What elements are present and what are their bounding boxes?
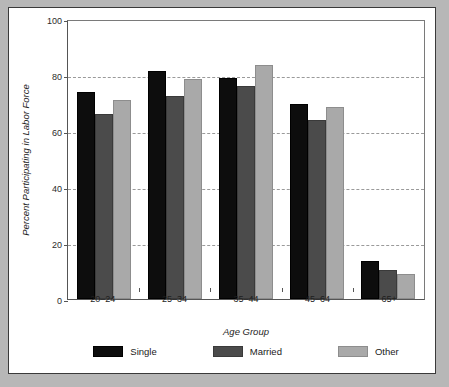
x-tick-label: 45–64 [305, 294, 330, 304]
bar-other-4564[interactable] [326, 107, 344, 299]
legend-item-single[interactable]: Single [93, 346, 156, 357]
chart-figure: Percent Participating in Labor Force 020… [0, 0, 449, 387]
bar-other-3544[interactable] [255, 65, 273, 299]
bar-married-4564[interactable] [308, 120, 326, 299]
x-tick-label: 20–24 [90, 294, 115, 304]
bar-single-65[interactable] [361, 261, 379, 299]
legend-item-other[interactable]: Other [338, 346, 399, 357]
bar-group [353, 21, 424, 299]
bar-married-2024[interactable] [95, 114, 113, 299]
y-axis-title: Percent Participating in Labor Force [20, 84, 31, 236]
legend-swatch-single [93, 346, 123, 357]
x-tick-mark [139, 288, 140, 292]
y-tick-mark [64, 301, 68, 302]
x-tick-label: 25–34 [162, 294, 187, 304]
bar-single-3544[interactable] [219, 78, 237, 299]
bar-single-2024[interactable] [77, 92, 95, 299]
bar-married-2534[interactable] [166, 96, 184, 299]
plot-area: 020406080100 [67, 20, 425, 300]
x-tick-label: 65+ [382, 294, 397, 304]
legend-swatch-other [338, 346, 368, 357]
bar-group [68, 21, 139, 299]
y-tick-label: 0 [57, 296, 62, 306]
legend-label: Married [250, 346, 282, 357]
x-tick-mark [210, 288, 211, 292]
chart-legend: SingleMarriedOther [67, 346, 425, 357]
chart-panel: Percent Participating in Labor Force 020… [8, 7, 436, 374]
x-axis-title: Age Group [223, 326, 269, 337]
bar-groups [68, 21, 424, 299]
bar-single-4564[interactable] [290, 104, 308, 299]
y-tick-label: 80 [52, 72, 62, 82]
y-tick-label: 60 [52, 128, 62, 138]
legend-label: Other [375, 346, 399, 357]
y-tick-label: 40 [52, 184, 62, 194]
bar-single-2534[interactable] [148, 71, 166, 299]
x-tick-label: 35–44 [233, 294, 258, 304]
x-tick-mark [282, 288, 283, 292]
bar-group [210, 21, 281, 299]
bar-other-2024[interactable] [113, 100, 131, 299]
bar-other-2534[interactable] [184, 79, 202, 299]
bar-married-3544[interactable] [237, 86, 255, 299]
y-tick-label: 20 [52, 240, 62, 250]
bar-group [282, 21, 353, 299]
x-tick-mark [353, 288, 354, 292]
legend-item-married[interactable]: Married [213, 346, 282, 357]
legend-label: Single [130, 346, 156, 357]
bar-other-65[interactable] [397, 274, 415, 299]
legend-swatch-married [213, 346, 243, 357]
y-tick-label: 100 [47, 16, 62, 26]
bar-group [139, 21, 210, 299]
